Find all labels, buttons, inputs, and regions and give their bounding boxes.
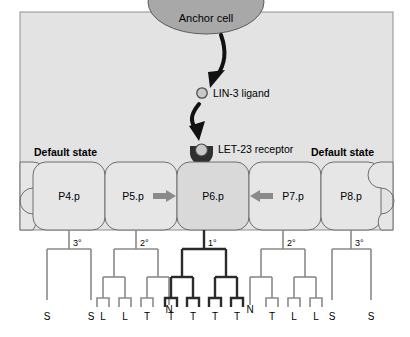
lineage-leaf-p6p-0: T: [168, 311, 174, 322]
vpc-cell-p6p[interactable]: P6.p: [177, 162, 249, 230]
fate-label-p8p: 3°: [355, 238, 364, 248]
open-circle-icon: [197, 88, 207, 98]
vulval-induction-diagram: Anchor cell LIN-3 ligand LET-23 receptor…: [0, 0, 410, 337]
vpc-cell-label-p7p: P7.p: [282, 190, 304, 202]
lineage-leaf-p7p-1: T: [269, 311, 275, 322]
fate-label-p7p: 2°: [287, 238, 296, 248]
lineage-tree-p6p: [165, 230, 243, 307]
lineage-leaf-p4p-1: S: [88, 311, 95, 322]
lineage-leaf-p6p-1: T: [190, 311, 196, 322]
anchor-cell-label: Anchor cell: [179, 12, 233, 24]
lineage-tree-p8p: [332, 230, 371, 300]
lineage-leaf-p7p-0: N: [246, 304, 253, 315]
lineage-leaf-p5p-0: L: [100, 311, 106, 322]
default-state-label-left: Default state: [34, 146, 97, 158]
diagram-root: Anchor cell LIN-3 ligand LET-23 receptor…: [0, 0, 410, 337]
vpc-row: P4.p P5.p P6.p P7.p P8.p: [20, 162, 394, 230]
lineage-leaf-p7p-2: L: [291, 311, 297, 322]
lineage-tree-p5p: [97, 230, 169, 307]
lineage-leaf-p7p-3: L: [313, 311, 319, 322]
lineage-leaf-p4p-0: S: [44, 311, 51, 322]
lineage-leaf-p6p-3: T: [234, 311, 240, 322]
vpc-cell-label-p8p: P8.p: [340, 190, 362, 202]
vpc-cell-label-p5p: P5.p: [122, 190, 144, 202]
vpc-cell-label-p6p: P6.p: [202, 190, 224, 202]
vpc-cell-p4p[interactable]: P4.p: [33, 162, 105, 230]
lineage-leaf-p8p-1: S: [368, 311, 375, 322]
fate-label-p5p: 2°: [140, 238, 149, 248]
fate-label-p4p: 3°: [73, 238, 82, 248]
vpc-cell-label-p4p: P4.p: [58, 190, 80, 202]
lineage-leaf-p6p-2: T: [212, 311, 218, 322]
lin3-ligand-label: LIN-3 ligand: [213, 87, 270, 99]
lineage-leaf-p5p-1: L: [122, 311, 128, 322]
fate-label-p6p: 1°: [208, 238, 217, 248]
lineage-tree-p7p: [250, 230, 322, 307]
lineage-leaf-p8p-0: S: [329, 311, 336, 322]
default-state-label-right: Default state: [311, 146, 374, 158]
lineage-tree-p4p: [47, 230, 91, 300]
let23-receptor-label: LET-23 receptor: [218, 143, 294, 155]
lineage-leaf-p5p-2: T: [144, 311, 150, 322]
